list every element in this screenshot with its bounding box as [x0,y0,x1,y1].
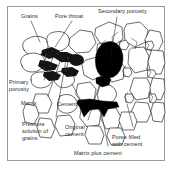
label-matrix-plus-cement: Matrix plus cement [74,150,122,156]
label-pressure-solution-line3: grains [22,135,38,141]
grain-angular [119,112,137,130]
grain-angular [69,30,96,53]
label-cement: Cement [57,101,77,107]
grain-angular [151,102,165,122]
label-pores-filled-line1: Pores filled [112,134,140,140]
label-original-cement-line2: cement [65,131,84,137]
grain-angular [85,126,104,144]
label-pore-throat: Pore throat [55,13,83,19]
label-pores-filled-line2: with cement [112,141,142,147]
label-primary-porosity-line1: Primary [9,79,29,85]
grain-small [148,70,156,78]
label-primary-porosity-line2: porosity [9,86,29,92]
label-original-cement-line1: Original [65,124,85,130]
figure-root: Grains Pore throat Secondary porosity Pr… [0,0,173,173]
label-pressure-solution-line1: Pressure [22,121,45,127]
label-pressure-solution-line2: solution of [22,128,48,134]
label-grains: Grains [21,13,38,19]
label-matrix: Matrix [21,100,37,106]
label-secondary-porosity: Secondary porosity [98,8,147,14]
